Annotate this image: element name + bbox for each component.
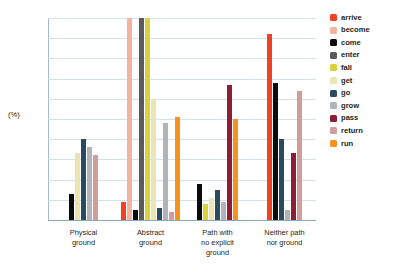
legend-item-get[interactable]: get [330,75,370,86]
legend-item-label: go [341,89,350,97]
legend-item-run[interactable]: run [330,138,370,149]
bar-fall [203,204,208,220]
legend-swatch-icon [330,77,337,84]
legend-item-fall[interactable]: fall [330,62,370,73]
legend-item-return[interactable]: return [330,125,370,136]
legend-item-label: run [341,140,353,148]
legend-item-arrive[interactable]: arrive [330,12,370,23]
bar-grow [285,210,290,220]
x-tick-label: Physicalground [52,228,116,248]
bar-return [297,91,302,220]
bar-grow [163,123,168,220]
bar-group [197,18,238,220]
bar-return [93,155,98,220]
legend-item-come[interactable]: come [330,37,370,48]
bar-go [215,190,220,220]
legend-item-label: enter [341,51,360,59]
legend-item-go[interactable]: go [330,88,370,99]
bar-grow [87,147,92,220]
legend-item-label: grow [341,102,359,110]
bar-run [175,117,180,220]
legend-item-label: fall [341,64,352,72]
bar-go [279,139,284,220]
legend-item-become[interactable]: become [330,25,370,36]
y-axis-title: (%) [8,110,20,119]
bar-get [151,99,156,220]
legend-item-label: get [341,77,352,85]
bar-run [233,119,238,220]
bar-grow [221,202,226,220]
legend: arrivebecomecomeenterfallgetgogrowpassre… [330,12,370,149]
bar-arrive [267,34,272,220]
bar-pass [227,85,232,220]
bar-go [81,139,86,220]
legend-item-label: return [341,127,363,135]
bar-come [69,194,74,220]
bar-chart: (%) 1009080706050403020100 Physicalgroun… [0,0,394,280]
bar-come [133,210,138,220]
legend-swatch-icon [330,64,337,71]
legend-item-label: become [341,26,370,34]
legend-item-pass[interactable]: pass [330,113,370,124]
bar-go [157,208,162,220]
bar-come [273,83,278,220]
bar-return [169,212,174,220]
gridline [48,220,316,221]
bar-fall [145,18,150,220]
legend-swatch-icon [330,39,337,46]
legend-item-label: come [341,39,361,47]
legend-item-label: arrive [341,14,362,22]
bar-pass [291,153,296,220]
legend-swatch-icon [330,14,337,21]
legend-item-grow[interactable]: grow [330,100,370,111]
legend-item-enter[interactable]: enter [330,50,370,61]
legend-item-label: pass [341,114,358,122]
bar-group [69,18,98,220]
legend-swatch-icon [330,27,337,34]
x-tick-label: Neither pathnor ground [253,228,317,248]
bar-group [267,18,302,220]
legend-swatch-icon [330,102,337,109]
bar-enter [139,18,144,220]
bar-group [121,18,180,220]
legend-swatch-icon [330,52,337,59]
x-tick-label: Abstractground [119,228,183,248]
bar-get [75,153,80,220]
bar-get [209,198,214,220]
x-tick-label: Path withno explicitground [186,228,250,258]
bar-come [197,184,202,220]
legend-swatch-icon [330,127,337,134]
bar-arrive [121,202,126,220]
legend-swatch-icon [330,115,337,122]
bar-become [127,18,132,220]
legend-swatch-icon [330,90,337,97]
legend-swatch-icon [330,140,337,147]
plot-area: 1009080706050403020100 [48,18,316,220]
